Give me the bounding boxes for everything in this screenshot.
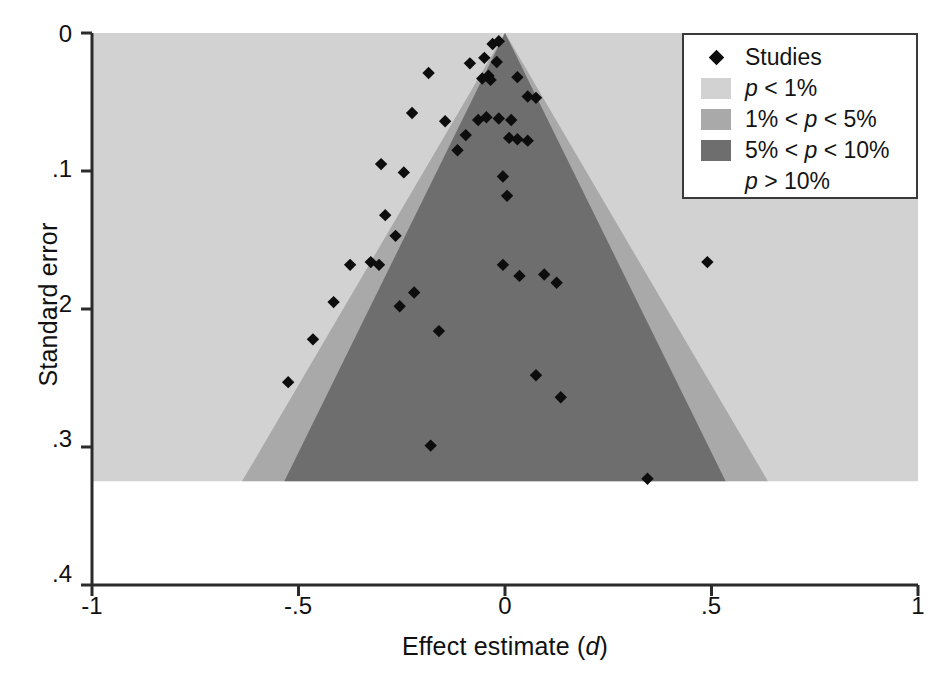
legend-row-p-lt-1: p < 1% bbox=[684, 73, 916, 104]
swatch-p-1-5-icon bbox=[696, 109, 736, 131]
swatch-p-lt-1-icon bbox=[696, 78, 736, 100]
legend-row-p-5-10: 5% < p < 10% bbox=[684, 135, 916, 166]
legend-label-p-5-10: 5% < p < 10% bbox=[745, 139, 890, 162]
legend-label-p-gt-10: p > 10% bbox=[745, 170, 830, 193]
studies-marker-icon bbox=[696, 47, 736, 69]
legend-label-studies: Studies bbox=[745, 46, 822, 69]
legend-row-p-gt-10: p > 10% bbox=[684, 166, 916, 197]
legend-label-p-lt-1: p < 1% bbox=[745, 77, 817, 100]
swatch-p-5-10-icon bbox=[696, 140, 736, 162]
legend-row-studies: Studies bbox=[684, 42, 916, 73]
legend-row-p-1-5: 1% < p < 5% bbox=[684, 104, 916, 135]
legend-box: Studies p < 1% 1% < p < 5% 5% < p < 10% … bbox=[682, 33, 918, 199]
funnel-plot-figure: Standard error Effect estimate (d) 0 .1 … bbox=[0, 0, 948, 682]
legend-label-p-1-5: 1% < p < 5% bbox=[745, 108, 877, 131]
swatch-p-gt-10-icon bbox=[696, 171, 736, 193]
